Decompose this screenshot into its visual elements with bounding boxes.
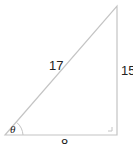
adjacent-side-label: 8 <box>61 136 68 144</box>
right-angle-marker <box>108 127 112 131</box>
hypotenuse-label: 17 <box>49 58 63 73</box>
angle-theta-label: θ <box>10 123 16 135</box>
triangle-diagram: θ 17 15 8 <box>0 0 133 144</box>
angle-arc <box>17 123 23 136</box>
opposite-side-label: 15 <box>121 63 133 78</box>
